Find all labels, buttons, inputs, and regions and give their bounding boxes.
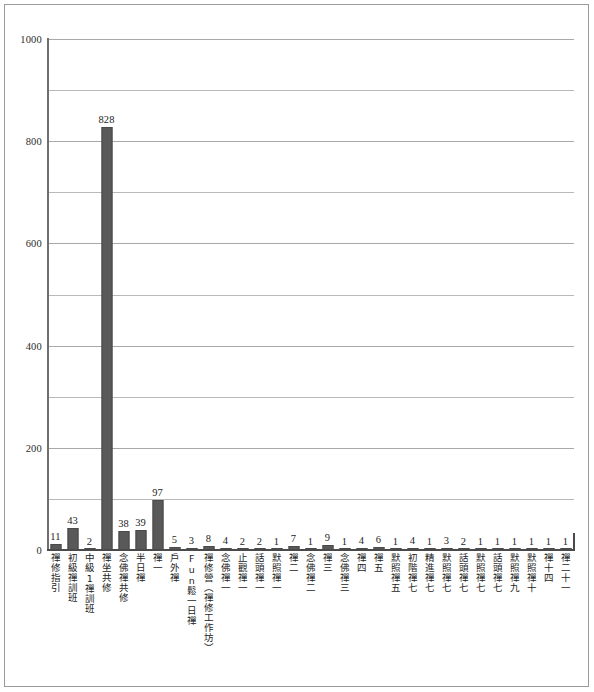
bar [339,548,350,550]
category-label-slot: 禪一 [149,553,166,683]
bar-value-label: 1 [427,536,432,547]
category-label-slot: 禪五 [370,553,387,683]
bar-value-label: 1 [308,536,313,547]
bar-value-label: 9 [325,532,330,543]
category-label-slot: Fun鬆一日禪 [183,553,200,683]
y-axis-tick-label: 200 [26,442,42,453]
y-axis-tick-label: 0 [37,545,42,556]
category-label-slot: 念佛禪共修 [115,553,132,683]
bar [152,500,163,550]
bar-item: 1 [421,39,438,550]
bar [475,548,486,550]
bar-value-label: 1 [512,536,517,547]
bar-item: 1 [472,39,489,550]
bar-value-label: 2 [240,536,245,547]
category-label-slot: 中級1禪訓班 [81,553,98,683]
bar-value-label: 1 [563,536,568,547]
y-axis-tick-label: 800 [26,136,42,147]
bar-item: 7 [285,39,302,550]
category-label: 默照禪九 [510,553,520,593]
bar-value-label: 11 [50,531,60,542]
bar [390,548,401,550]
bar-item: 1 [489,39,506,550]
category-label: 禪坐共修 [102,553,112,593]
bar-value-label: 38 [118,518,129,529]
category-label-slot: 戶外禪 [166,553,183,683]
category-label: 禪修指引 [51,553,61,593]
bar [101,127,112,550]
bar [169,547,180,550]
category-label: 默照禪十 [527,553,537,593]
bar-value-label: 3 [189,535,194,546]
bar [407,548,418,550]
bar [237,548,248,550]
category-label-slot: 念佛禪三 [336,553,353,683]
bar-item: 2 [455,39,472,550]
category-label: 禪二 [289,553,299,573]
category-label: 禪一 [153,553,163,573]
bar [424,548,435,550]
bar [373,547,384,550]
category-label: 禪修營（禪修工作坊） [204,553,214,653]
bar-item: 39 [132,39,149,550]
bar-value-label: 4 [410,535,415,546]
bar-item: 9 [319,39,336,550]
bar [135,530,146,550]
y-axis-tick-label: 1000 [20,34,42,45]
y-axis-tick-labels: 10008006004002000 [0,39,42,550]
category-label: Fun鬆一日禪 [187,553,197,626]
bar-item: 4 [353,39,370,550]
bar-value-label: 1 [478,536,483,547]
bar-value-label: 2 [87,536,92,547]
bar-item: 4 [404,39,421,550]
bar [526,548,537,550]
bar-value-label: 3 [444,535,449,546]
bar-value-label: 8 [206,533,211,544]
category-label-slot: 念佛禪一 [217,553,234,683]
category-label-slot: 默照禪一 [268,553,285,683]
bar-value-label: 2 [461,536,466,547]
category-label-slot: 禪三 [319,553,336,683]
bar-item: 6 [370,39,387,550]
bar-item: 43 [64,39,81,550]
category-label-slot: 半日禪 [132,553,149,683]
bar [305,548,316,550]
category-label: 初級禪訓班 [68,553,78,603]
bar-value-label: 1 [529,536,534,547]
bar-value-label: 1 [546,536,551,547]
category-label-slot: 止觀禪一 [234,553,251,683]
bar [441,548,452,550]
category-label: 念佛禪一 [221,553,231,593]
bar-item: 1 [336,39,353,550]
category-label: 念佛禪三 [340,553,350,593]
category-label-slot: 精進禪七 [421,553,438,683]
bar-item: 5 [166,39,183,550]
bar [254,548,265,550]
category-label: 戶外禪 [170,553,180,583]
bar-item: 1 [540,39,557,550]
bar [509,548,520,550]
bar-value-label: 4 [359,535,364,546]
category-label: 精進禪七 [425,553,435,593]
bar-value-label: 1 [274,536,279,547]
bar [458,548,469,550]
bar-value-label: 43 [67,515,78,526]
category-label: 禪三 [323,553,333,573]
category-label: 禪四 [357,553,367,573]
category-label-slot: 禪修營（禪修工作坊） [200,553,217,683]
bar [67,528,78,550]
bar [203,546,214,550]
category-label: 話頭禪七 [493,553,503,593]
bar [560,548,571,550]
category-label-slot: 默照禪九 [506,553,523,683]
bar-item: 3 [438,39,455,550]
bar-item: 38 [115,39,132,550]
bar-series: 11432828383997538422171914614132111111 [47,39,574,550]
y-axis-tick-label: 400 [26,340,42,351]
bar [271,548,282,550]
bar [543,548,554,550]
bar [186,548,197,550]
bar-item: 8 [200,39,217,550]
category-label: 禪十四 [544,553,554,583]
bar-value-label: 39 [135,517,146,528]
